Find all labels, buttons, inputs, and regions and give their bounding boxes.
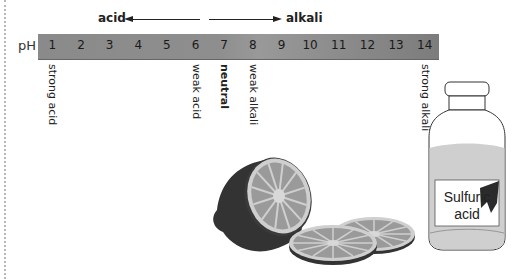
ph-tick-7: 7 bbox=[220, 38, 228, 52]
bottle-label-line1: Sulfuric bbox=[444, 189, 491, 205]
lemon-illustration bbox=[205, 140, 420, 270]
sulfuric-acid-bottle: Sulfuric acid bbox=[425, 78, 525, 258]
ph-tick-9: 9 bbox=[278, 38, 286, 52]
annotation-weak-acid: weak acid bbox=[190, 64, 203, 119]
bottle-label-line2: acid bbox=[454, 206, 480, 222]
alkali-arrow-line bbox=[209, 19, 274, 20]
ph-axis-label: pH bbox=[18, 38, 36, 53]
annotation-strong-acid: strong acid bbox=[46, 64, 59, 125]
acid-arrow-line bbox=[132, 19, 200, 20]
ph-tick-2: 2 bbox=[77, 38, 85, 52]
annotation-weak-alkali: weak alkali bbox=[247, 64, 260, 125]
ph-scale-bar bbox=[38, 34, 439, 60]
alkali-direction-label: alkali bbox=[286, 11, 323, 25]
ph-tick-11: 11 bbox=[331, 38, 346, 52]
lemon-slice-front bbox=[289, 225, 377, 265]
ph-tick-3: 3 bbox=[106, 38, 114, 52]
ph-tick-5: 5 bbox=[163, 38, 171, 52]
arrow-right-icon bbox=[273, 16, 282, 22]
ph-tick-4: 4 bbox=[134, 38, 142, 52]
ph-tick-14: 14 bbox=[417, 38, 432, 52]
ph-tick-1: 1 bbox=[48, 38, 56, 52]
annotation-neutral: neutral bbox=[218, 64, 231, 109]
ph-tick-10: 10 bbox=[302, 38, 317, 52]
ph-tick-12: 12 bbox=[360, 38, 375, 52]
left-dotted-border bbox=[4, 0, 6, 279]
acid-direction-label: acid bbox=[98, 11, 126, 25]
ph-tick-13: 13 bbox=[388, 38, 403, 52]
ph-tick-8: 8 bbox=[249, 38, 257, 52]
ph-tick-6: 6 bbox=[192, 38, 200, 52]
